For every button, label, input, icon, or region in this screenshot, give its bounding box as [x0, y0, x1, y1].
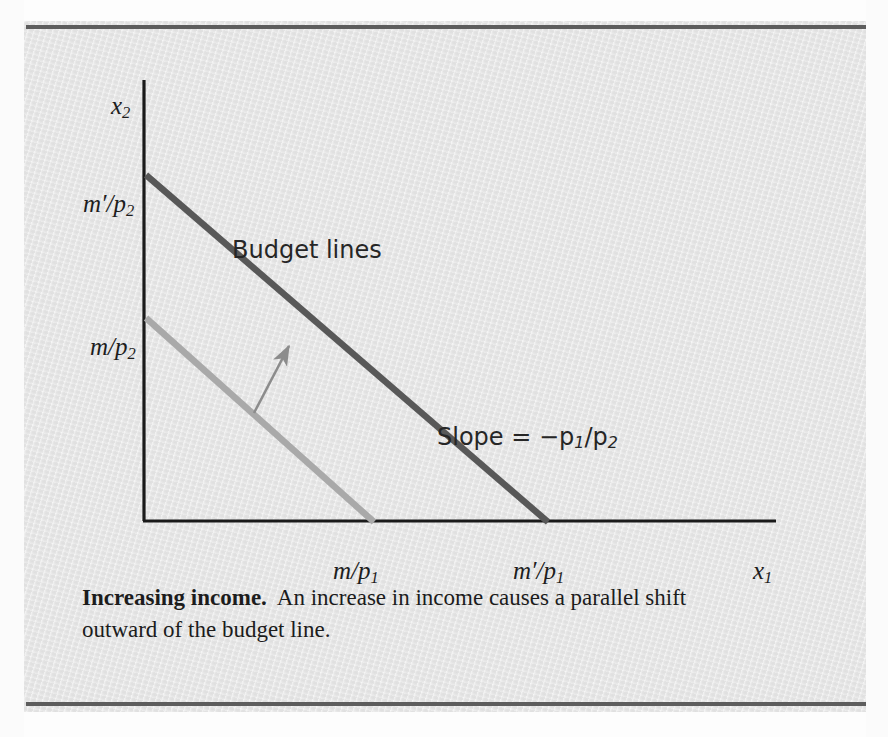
- budget-lines-annotation: Budget lines: [232, 238, 382, 262]
- figure-rule-bottom: [26, 702, 866, 706]
- page-margin-bottom: [0, 712, 888, 737]
- caption-lead: Increasing income.: [82, 585, 267, 610]
- y-intercept-label-m-over-p2: m/p2: [90, 334, 136, 362]
- budget-line-diagram: x2 m′/p2 m/p2 Budget lines Slope = −p1/p…: [0, 29, 888, 574]
- axis-label-x2: x2: [111, 93, 130, 121]
- y-intercept-label-m-prime-over-p2: m′/p2: [83, 191, 134, 219]
- plot-svg: [0, 29, 888, 574]
- new-budget-line: [146, 175, 548, 522]
- slope-annotation: Slope = −p1/p2: [437, 425, 618, 451]
- figure-page: x2 m′/p2 m/p2 Budget lines Slope = −p1/p…: [0, 0, 888, 737]
- shift-arrow: [254, 346, 289, 413]
- page-margin-top: [0, 0, 888, 21]
- old-budget-line: [146, 318, 374, 522]
- figure-caption: Increasing income.An increase in income …: [82, 582, 702, 646]
- axis-label-x1: x1: [753, 558, 772, 586]
